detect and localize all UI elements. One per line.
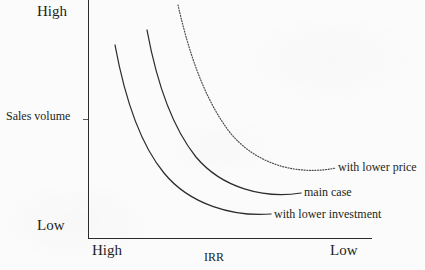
- series-label-with-lower-price: with lower price: [338, 161, 417, 173]
- x-axis-low-label: Low: [330, 243, 358, 258]
- y-axis-low-label: Low: [37, 218, 65, 233]
- curve-with-lower-price: [178, 5, 336, 170]
- x-axis-high-label: High: [92, 243, 122, 258]
- x-axis-title: IRR: [204, 251, 224, 263]
- series-label-with-lower-investment: with lower investment: [274, 208, 381, 220]
- y-axis-high-label: High: [37, 4, 67, 19]
- chart-figure: High Sales volume Low High IRR Low with …: [0, 0, 425, 270]
- series-label-main-case: main case: [304, 186, 352, 198]
- curve-main-case: [147, 30, 301, 195]
- y-axis-title: Sales volume: [6, 110, 70, 122]
- curve-with-lower-investment: [115, 45, 271, 214]
